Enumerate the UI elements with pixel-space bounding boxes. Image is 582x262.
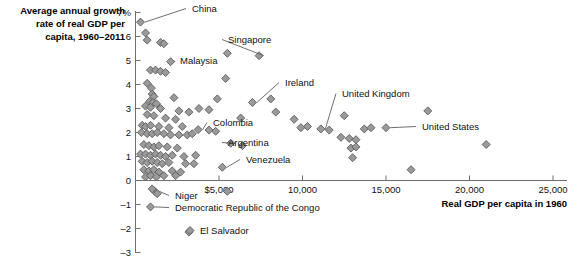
annotation-label: Venezuela [246,154,291,165]
data-point [325,126,333,134]
y-tick-label: 0 [126,175,131,186]
y-axis-title: Average annual growth rate of real GDP p… [20,5,125,42]
y-tick-label: –2 [120,223,131,234]
data-point [170,94,178,102]
x-axis-title: Real GDP per capita in 1960 [442,198,568,209]
x-tick-label: 20,000 [455,184,484,195]
annotation-leader-line [145,9,186,23]
y-tick-label: –3 [120,247,131,258]
annotation-label: China [192,3,218,14]
data-point [150,112,158,120]
data-point [195,105,203,113]
data-point [168,151,176,159]
data-point [147,203,155,211]
data-point [205,106,213,114]
y-tick-label: 2 [126,127,131,138]
annotation-label: Ireland [285,77,314,88]
annotation-labels-layer: ChinaSingaporeMalaysiaIrelandUnited King… [175,3,479,236]
data-point [290,115,298,123]
y-tick-label: 3 [126,103,131,114]
y-axis-title-line-1: Average annual growth [20,5,125,16]
y-tick-label: –1 [120,199,131,210]
data-point [162,114,170,122]
data-point [172,115,180,123]
data-point [212,127,220,135]
annotation-label: Singapore [228,34,271,45]
data-point [248,99,256,107]
data-point [143,111,151,119]
data-point [175,131,183,139]
data-point [317,125,325,133]
data-point [267,95,275,103]
data-point [175,107,183,115]
chart-canvas: Average annual growth rate of real GDP p… [0,0,582,262]
y-tick-label: 4 [126,79,131,90]
data-point [297,124,305,132]
annotation-label: Niger [175,190,198,201]
data-point [192,151,200,159]
annotation-label: United States [422,121,479,132]
x-tick-label: 10,000 [288,184,317,195]
data-point [143,36,151,44]
data-point [163,143,171,151]
x-tick-label: 15,000 [371,184,400,195]
y-tick-label: 7% [117,7,131,18]
data-point [349,154,357,162]
data-point [218,163,226,171]
data-point [407,166,415,174]
scatter-plot-figure: Average annual growth rate of real GDP p… [0,0,582,262]
data-point [180,153,188,161]
data-point [222,75,230,83]
data-point [223,49,231,57]
data-point [167,58,175,66]
x-tick-label: 25,000 [538,184,567,195]
data-point [424,107,432,115]
data-point [185,108,193,116]
data-point [142,29,150,37]
annotation-leader-line [325,94,336,129]
data-point [304,123,312,131]
annotation-label: El Salvador [200,225,249,236]
annotation-label: Democratic Republic of the Congo [175,202,320,213]
x-axis-ticks: $5,00010,00015,00020,00025,000 [204,176,567,196]
y-axis-title-line-2: rate of real GDP per [36,18,125,29]
data-point [137,18,145,26]
y-tick-label: 5 [126,55,131,66]
data-point [165,124,173,132]
data-point [173,144,181,152]
data-point [205,126,213,134]
data-point [382,124,390,132]
data-point [345,135,353,143]
annotation-leader-line [155,207,169,208]
data-point [482,141,490,149]
y-tick-label: 6 [126,31,131,42]
annotation-label: Malaysia [180,55,218,66]
data-point [272,108,280,116]
data-point [340,112,348,120]
data-point [360,125,368,133]
data-point [178,123,186,131]
y-tick-label: 1 [126,151,131,162]
data-point [337,133,345,141]
data-point [190,160,198,168]
data-point [367,124,375,132]
annotation-leader-line [227,160,240,168]
data-point [160,130,168,138]
annotation-label: Argentina [228,137,269,148]
annotation-label: Colombia [213,117,254,128]
data-point [167,131,175,139]
y-axis-title-line-3: capita, 1960–2011 [45,31,125,42]
annotation-label: United Kingdom [342,88,410,99]
data-point [182,160,190,168]
data-point [213,95,221,103]
annotation-leader-line [391,127,417,128]
